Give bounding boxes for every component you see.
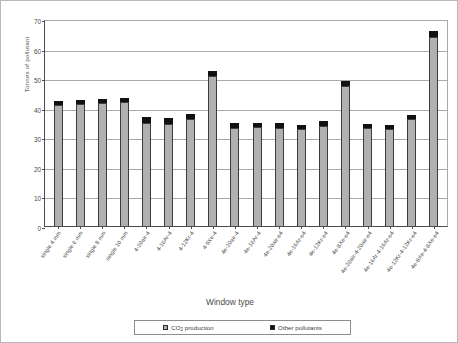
x-axis-tick-mark bbox=[323, 226, 324, 229]
stacked-bar[interactable] bbox=[142, 117, 151, 226]
stacked-bar[interactable] bbox=[208, 71, 217, 226]
x-axis-tick-label: 4-12Kr-4 bbox=[177, 230, 195, 252]
x-axis-tick-label: single 10 mm bbox=[104, 230, 129, 262]
x-axis-tick-mark bbox=[80, 226, 81, 229]
stacked-bar[interactable] bbox=[341, 81, 350, 226]
stacked-bar[interactable] bbox=[407, 115, 416, 226]
bar-segment-co2[interactable] bbox=[54, 105, 63, 226]
stacked-bar[interactable] bbox=[186, 114, 195, 226]
bar-segment-co2[interactable] bbox=[319, 126, 328, 226]
x-axis-tick-mark bbox=[279, 226, 280, 229]
bar-slot bbox=[423, 21, 445, 226]
chart-figure: Tonnes of pollutant 010203040506070 sing… bbox=[0, 0, 458, 343]
bar-slot bbox=[113, 21, 135, 226]
bar-segment-co2[interactable] bbox=[275, 128, 284, 226]
bar-segment-co2[interactable] bbox=[230, 128, 239, 226]
x-axis-tick-mark bbox=[368, 226, 369, 229]
bar-segment-co2[interactable] bbox=[253, 127, 262, 226]
bar-slot bbox=[246, 21, 268, 226]
y-axis-tick-label: 0 bbox=[37, 225, 41, 232]
bar-segment-co2[interactable] bbox=[297, 129, 306, 226]
x-axis-tick-mark bbox=[146, 226, 147, 229]
x-axis-tick-mark bbox=[169, 226, 170, 229]
x-axis-tick-mark bbox=[213, 226, 214, 229]
x-axis-tick-mark bbox=[191, 226, 192, 229]
bar-segment-co2[interactable] bbox=[164, 124, 173, 226]
bar-slot bbox=[69, 21, 91, 226]
stacked-bar[interactable] bbox=[253, 123, 262, 226]
x-axis-tick-label: 4-16Ar-4 bbox=[155, 230, 173, 252]
stacked-bar[interactable] bbox=[120, 98, 129, 226]
bar-segment-co2[interactable] bbox=[208, 76, 217, 226]
stacked-bar[interactable] bbox=[54, 101, 63, 226]
bar-slot bbox=[91, 21, 113, 226]
x-axis-tick-mark bbox=[257, 226, 258, 229]
stacked-bar[interactable] bbox=[429, 31, 438, 226]
legend-label-co2: CO2 production bbox=[171, 324, 213, 331]
bar-segment-co2[interactable] bbox=[142, 123, 151, 226]
x-axis-tick-mark bbox=[390, 226, 391, 229]
bar-slot bbox=[47, 21, 69, 226]
bar-series-group bbox=[45, 21, 447, 226]
x-axis-tick-label: single 8 mm bbox=[84, 230, 107, 259]
x-axis-tick-label: 4e-16Ar-e4 bbox=[285, 230, 307, 257]
stacked-bar[interactable] bbox=[76, 100, 85, 226]
stacked-bar[interactable] bbox=[363, 124, 372, 226]
bar-segment-co2[interactable] bbox=[186, 119, 195, 226]
x-axis-tick-mark bbox=[235, 226, 236, 229]
bar-slot bbox=[312, 21, 334, 226]
y-axis-tick-label: 10 bbox=[34, 195, 41, 202]
stacked-bar[interactable] bbox=[275, 123, 284, 226]
x-axis-tick-labels: single 4 mmsingle 6 mmsingle 8 mmsingle … bbox=[44, 230, 448, 298]
plot-area: 010203040506070 bbox=[44, 20, 448, 227]
stacked-bar[interactable] bbox=[98, 99, 107, 226]
stacked-bar[interactable] bbox=[230, 123, 239, 226]
x-axis-tick-mark bbox=[102, 226, 103, 229]
x-axis-tick-label: 4e-16Ar-4 bbox=[242, 230, 262, 255]
y-axis-tick-label: 60 bbox=[34, 47, 41, 54]
x-axis-tick-label: 4e-20air-e4 bbox=[262, 230, 284, 258]
x-axis-tick-label: 4e-12Kr-e4 bbox=[307, 230, 329, 257]
stacked-bar[interactable] bbox=[319, 121, 328, 226]
bar-slot bbox=[135, 21, 157, 226]
legend-swatch-co2-icon bbox=[163, 325, 168, 330]
stacked-bar[interactable] bbox=[164, 118, 173, 226]
stacked-bar[interactable] bbox=[297, 125, 306, 226]
bar-segment-co2[interactable] bbox=[407, 119, 416, 226]
bar-segment-co2[interactable] bbox=[120, 102, 129, 226]
x-axis-tick-label: single 6 mm bbox=[61, 230, 84, 259]
bar-slot bbox=[334, 21, 356, 226]
x-axis-tick-mark bbox=[434, 226, 435, 229]
bar-segment-co2[interactable] bbox=[341, 86, 350, 226]
y-axis-tick-label: 70 bbox=[34, 18, 41, 25]
bar-segment-co2[interactable] bbox=[385, 129, 394, 226]
x-axis-tick-label: 4-20air-4 bbox=[133, 230, 151, 253]
bar-slot bbox=[202, 21, 224, 226]
stacked-bar[interactable] bbox=[385, 125, 394, 226]
y-axis-tick-label: 50 bbox=[34, 77, 41, 84]
x-axis-tick-mark bbox=[412, 226, 413, 229]
y-axis-tick-label: 40 bbox=[34, 106, 41, 113]
bar-slot bbox=[268, 21, 290, 226]
bar-slot bbox=[224, 21, 246, 226]
legend-label-other-pollutants: Other pollutants bbox=[278, 324, 322, 331]
x-axis-tick-label: 4e-20air-4 bbox=[220, 230, 240, 255]
bar-slot bbox=[158, 21, 180, 226]
bar-segment-co2[interactable] bbox=[429, 37, 438, 226]
y-axis-tick-label: 20 bbox=[34, 165, 41, 172]
bar-segment-co2[interactable] bbox=[363, 128, 372, 226]
bar-slot bbox=[401, 21, 423, 226]
bar-slot bbox=[379, 21, 401, 226]
y-axis-title: Tonnes of pollutant bbox=[23, 0, 30, 145]
x-axis-tick-label: single 4 mm bbox=[39, 230, 62, 259]
x-axis-title: Window type bbox=[1, 297, 458, 307]
legend-item-other-pollutants: Other pollutants bbox=[270, 324, 322, 331]
x-axis-tick-mark bbox=[58, 226, 59, 229]
bar-segment-co2[interactable] bbox=[98, 103, 107, 226]
y-axis-tick-mark bbox=[42, 228, 45, 229]
x-axis-tick-label: 4e-8Xe-e4 bbox=[330, 230, 350, 256]
x-axis-tick-mark bbox=[345, 226, 346, 229]
y-axis-tick-label: 30 bbox=[34, 136, 41, 143]
x-axis-tick-mark bbox=[124, 226, 125, 229]
bar-segment-co2[interactable] bbox=[76, 104, 85, 226]
